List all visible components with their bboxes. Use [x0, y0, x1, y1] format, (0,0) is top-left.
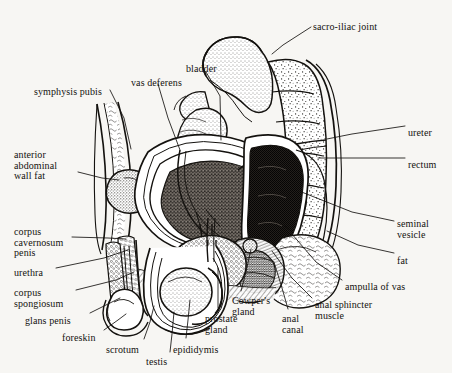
label-ureter: ureter — [408, 128, 432, 139]
label-prostate-gland: prostate gland — [205, 314, 237, 335]
label-seminal-vesicle: seminal vesicle — [397, 219, 429, 240]
label-symphysis-pubis: symphysis pubis — [34, 87, 102, 98]
label-rectum: rectum — [408, 160, 436, 171]
label-urethra: urethra — [14, 268, 43, 279]
label-scrotum: scrotum — [106, 345, 139, 356]
label-fat: fat — [397, 256, 408, 267]
label-ampulla-of-vas: ampulla of vas — [345, 282, 405, 293]
label-anal-sphincter-muscle: anal sphincter muscle — [315, 300, 372, 321]
label-sacro-iliac-joint: sacro-iliac joint — [313, 22, 377, 33]
label-anal-canal: anal canal — [282, 314, 304, 335]
cowpers-gland — [243, 239, 257, 253]
label-epididymis: epididymis — [173, 345, 218, 356]
label-testis: testis — [146, 357, 167, 368]
label-glans-penis: glans penis — [25, 316, 71, 327]
label-vas-deferens: vas deferens — [131, 78, 182, 89]
label-bladder: bladder — [186, 64, 217, 75]
label-anterior-abdominal-wall-fat: anterior abdominal wall fat — [14, 150, 57, 182]
label-corpus-cavernosum-penis: corpus cavernosum penis — [14, 227, 63, 259]
anatomical-figure: sacro-iliac jointbladdervas deferenssymp… — [0, 0, 452, 373]
label-cowpers-gland: Cowper's gland — [232, 296, 270, 317]
label-foreskin: foreskin — [62, 333, 96, 344]
label-corpus-spongiosum: corpus spongiosum — [14, 288, 63, 309]
